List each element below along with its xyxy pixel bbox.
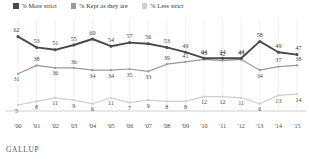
x-tick-label: '01	[33, 122, 40, 129]
data-label: 8	[165, 104, 168, 110]
x-tick-label: '06	[126, 122, 133, 129]
data-point	[259, 69, 261, 71]
data-label: 51	[52, 40, 58, 46]
data-label: 42	[220, 51, 226, 57]
x-tick-label: '02	[52, 122, 59, 129]
data-point	[259, 103, 261, 105]
series-line-0	[18, 37, 297, 59]
data-point	[128, 41, 131, 44]
data-label: 13	[275, 98, 281, 104]
x-tick-label: '10	[200, 122, 207, 129]
data-label: 49	[275, 43, 281, 49]
data-label: 14	[295, 97, 301, 103]
data-label: 7	[128, 105, 131, 111]
data-point	[296, 64, 298, 66]
data-point	[296, 93, 298, 95]
data-point	[222, 96, 224, 98]
data-label: 6	[91, 106, 94, 112]
data-label: 38	[34, 56, 40, 62]
data-label: 54	[108, 37, 114, 43]
data-label: 33	[145, 74, 151, 80]
x-tick-label: '04	[89, 122, 96, 129]
data-label: 8	[35, 104, 38, 110]
data-point	[166, 63, 168, 65]
data-point	[91, 69, 93, 71]
source-label: GALLUP	[6, 145, 39, 154]
data-point	[184, 100, 186, 102]
legend-item-more_strict: % More strict	[13, 3, 57, 9]
legend-swatch-more_strict	[13, 3, 19, 9]
series-line-1	[18, 59, 297, 73]
legend-label-less_strict: % Less strict	[150, 3, 183, 9]
data-label: 38	[295, 56, 301, 62]
data-label: 9	[147, 103, 150, 109]
legend-swatch-less_strict	[142, 3, 148, 9]
data-point	[36, 64, 38, 66]
data-point	[203, 57, 206, 60]
data-label: 43	[201, 50, 207, 56]
data-point	[54, 97, 56, 99]
data-point	[184, 61, 186, 63]
data-label: 57	[127, 33, 133, 39]
data-point	[277, 66, 279, 68]
legend-item-less_strict: % Less strict	[142, 3, 184, 9]
data-label: 35	[127, 72, 133, 78]
data-label: 11	[108, 100, 114, 106]
data-point	[110, 97, 112, 99]
data-point	[166, 100, 168, 102]
chart-legend: % More strict% Kept as they are% Less st…	[13, 3, 184, 9]
data-label: 11	[52, 100, 58, 106]
data-label: 56	[145, 34, 151, 40]
plot-area: 6253515560545756534944444458494731383636…	[0, 17, 309, 122]
data-point	[147, 99, 149, 101]
data-label: 53	[164, 38, 170, 44]
legend-label-more_strict: % More strict	[22, 3, 57, 9]
data-label: 12	[201, 99, 207, 105]
data-label: 49	[182, 43, 188, 49]
data-label: 34	[108, 73, 114, 79]
x-tick-label: '03	[70, 122, 77, 129]
data-point	[91, 38, 94, 41]
data-label: 36	[71, 59, 77, 65]
data-point	[17, 35, 20, 38]
data-point	[72, 44, 75, 47]
x-tick-label: '12	[238, 122, 245, 129]
data-point	[110, 45, 113, 48]
plot-svg: 6253515560545756534944444458494731383636…	[0, 17, 309, 122]
x-axis: '00'01'02'03'04'05'06'07'08'09'10'11'12'…	[0, 122, 309, 136]
legend-swatch-kept_as_they_are	[71, 3, 77, 9]
data-point	[36, 100, 38, 102]
data-point	[54, 67, 56, 69]
data-point	[258, 40, 261, 43]
data-label: 47	[295, 45, 301, 51]
data-point	[240, 97, 242, 99]
data-label: 55	[71, 36, 77, 42]
data-label: 8	[184, 104, 187, 110]
data-label: 9	[72, 103, 75, 109]
data-label: 43	[238, 50, 244, 56]
data-label: 37	[275, 57, 281, 63]
x-tick-label: '14	[275, 122, 282, 129]
data-label: 12	[220, 99, 226, 105]
data-point	[147, 70, 149, 72]
data-point	[54, 48, 57, 51]
data-label: 53	[34, 38, 40, 44]
data-label: 11	[238, 100, 244, 106]
x-tick-label: '13	[256, 122, 263, 129]
x-tick-label: '09	[182, 122, 189, 129]
legend-label-kept_as_they_are: % Kept as they are	[79, 3, 128, 9]
data-label: 31	[13, 76, 19, 82]
data-label: 58	[257, 32, 263, 38]
data-point	[240, 57, 243, 60]
data-point	[222, 60, 224, 62]
data-label: 5	[15, 108, 18, 114]
series-line-2	[18, 94, 297, 105]
data-point	[73, 67, 75, 69]
data-label: 60	[89, 30, 95, 36]
data-label: 34	[257, 73, 263, 79]
x-tick-label: '08	[163, 122, 170, 129]
data-point	[17, 73, 19, 75]
x-tick-label: '07	[145, 122, 152, 129]
data-point	[277, 94, 279, 96]
data-label: 6	[258, 106, 261, 112]
